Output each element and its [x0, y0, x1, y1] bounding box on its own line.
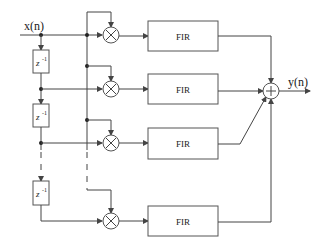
delay-exponent: -1 [42, 110, 47, 116]
multiplier-4 [103, 213, 119, 229]
delay-label: z [35, 189, 40, 199]
delay-block-2: z -1 [33, 104, 49, 127]
delay-label: z [35, 112, 40, 122]
multiplier-3 [103, 135, 119, 151]
fir-block-1: FIR [148, 21, 218, 51]
wire [41, 205, 102, 221]
fir-block-4: FIR [148, 206, 218, 236]
summer-node [263, 83, 279, 99]
wire [87, 66, 111, 81]
fir-label: FIR [176, 139, 190, 149]
multiplier-2 [103, 81, 119, 97]
wire [87, 120, 111, 135]
input-label: x(n) [24, 19, 44, 33]
delay-exponent: -1 [42, 187, 47, 193]
delay-exponent: -1 [42, 56, 47, 62]
wire [218, 36, 271, 83]
fir-block-3: FIR [148, 128, 218, 159]
fir-label: FIR [176, 85, 190, 95]
wire [87, 190, 111, 213]
fir-bank-diagram: x(n) z -1 z -1 z -1 [0, 0, 322, 248]
multiplier-1 [103, 27, 119, 43]
delay-block-1: z -1 [33, 50, 49, 73]
fir-label: FIR [176, 217, 190, 227]
junction-dot [85, 33, 89, 37]
output-label: y(n) [288, 75, 308, 89]
wire [218, 99, 271, 222]
delay-block-3: z -1 [33, 181, 49, 205]
wire [218, 97, 266, 144]
fir-label: FIR [176, 32, 190, 42]
wire [87, 12, 111, 27]
fir-block-2: FIR [148, 74, 218, 104]
delay-label: z [35, 58, 40, 68]
